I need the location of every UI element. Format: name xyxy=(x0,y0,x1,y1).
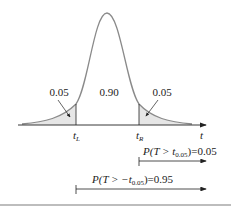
t-axis-variable-label: t xyxy=(200,129,204,141)
right-tail-probability-annotation: P(T > t0.05)=0.05 xyxy=(142,145,217,159)
left-tail-label: 0.05 xyxy=(49,86,69,98)
bottom-separator xyxy=(0,204,231,206)
right-tail-label: 0.05 xyxy=(152,86,172,98)
t-right-label: tR xyxy=(136,129,144,143)
t-left-label: tL xyxy=(73,129,80,143)
density-curve xyxy=(22,13,192,124)
t-distribution-diagram: 0.05 0.90 0.05 tL tR t P(T > t0.05)=0.05… xyxy=(0,0,231,207)
complement-probability-annotation: P(T > −t0.05)=0.95 xyxy=(91,173,174,187)
center-area-label: 0.90 xyxy=(99,86,119,98)
